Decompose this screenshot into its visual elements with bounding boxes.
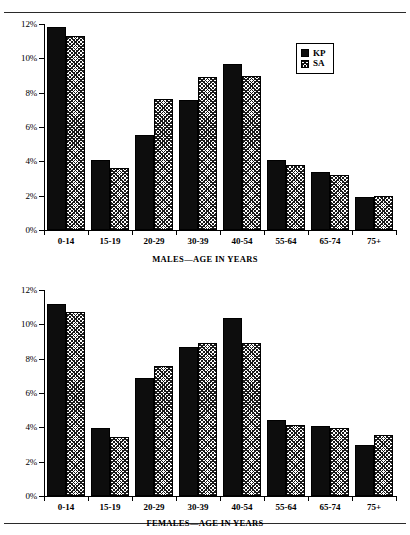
bar-group [176, 290, 220, 496]
x-axis-tick [88, 230, 89, 235]
x-axis-category-label: 40-54 [232, 236, 253, 246]
bar-group [352, 24, 396, 230]
bar-kp [135, 135, 154, 230]
bar-kp [91, 428, 110, 496]
bar-group [132, 290, 176, 496]
legend-entry-sa: SA [301, 59, 326, 68]
bar-pair [132, 290, 176, 496]
bar-group [88, 24, 132, 230]
bar-kp [179, 347, 198, 496]
x-axis-tick [396, 496, 397, 501]
bar-kp [135, 378, 154, 496]
bar-sa [198, 343, 217, 496]
bar-sa [110, 437, 129, 496]
y-axis-tick-label: 12% [21, 285, 37, 295]
bar-pair [44, 290, 88, 496]
bar-kp [355, 445, 374, 497]
x-axis-category-label: 0-14 [58, 236, 75, 246]
bar-kp [311, 172, 330, 230]
bar-group [308, 290, 352, 496]
bar-group [88, 290, 132, 496]
chart-males: 0%2%4%6%8%10%12%0-1415-1920-2930-3940-54… [0, 16, 410, 268]
figure-page: 0%2%4%6%8%10%12%0-1415-1920-2930-3940-54… [0, 0, 410, 535]
x-axis-tick [44, 496, 45, 501]
x-axis-tick [308, 496, 309, 501]
x-axis-category-label: 20-29 [144, 502, 165, 512]
top-horizontal-rule [4, 12, 406, 13]
x-axis-tick [44, 230, 45, 235]
bar-sa [374, 435, 393, 496]
bar-pair [132, 24, 176, 230]
bar-kp [179, 100, 198, 230]
bar-sa [66, 312, 85, 496]
x-axis-title-females: FEMALES—AGE IN YEARS [0, 518, 410, 528]
bar-pair [220, 290, 264, 496]
y-axis-tick-label: 2% [25, 191, 37, 201]
bar-sa [330, 428, 349, 496]
x-axis-category-label: 0-14 [58, 502, 75, 512]
bar-group [220, 290, 264, 496]
bar-kp [47, 27, 66, 230]
x-axis-tick [308, 230, 309, 235]
x-axis-tick [132, 496, 133, 501]
x-axis-tick [88, 496, 89, 501]
x-axis-tick [132, 230, 133, 235]
y-axis-tick-label: 8% [25, 88, 37, 98]
legend-swatch-sa-icon [301, 60, 309, 68]
bar-sa [242, 76, 261, 230]
chart-females: 0%2%4%6%8%10%12%0-1415-1920-2930-3940-54… [0, 282, 410, 532]
x-axis-category-label: 75+ [367, 502, 381, 512]
x-axis-title-males: MALES—AGE IN YEARS [0, 254, 410, 264]
bar-sa [242, 343, 261, 496]
bar-kp [311, 426, 330, 496]
bar-kp [267, 420, 286, 496]
bar-sa [374, 196, 393, 230]
x-axis-tick [220, 496, 221, 501]
bar-kp [223, 318, 242, 496]
y-axis-tick-label: 4% [25, 422, 37, 432]
y-axis-tick-label: 0% [25, 491, 37, 501]
x-axis-category-label: 40-54 [232, 502, 253, 512]
x-axis-tick [220, 230, 221, 235]
x-axis-category-label: 55-64 [276, 236, 297, 246]
x-axis-category-label: 15-19 [100, 236, 121, 246]
legend-entry-kp: KP [301, 49, 326, 58]
bar-kp [355, 197, 374, 230]
y-axis-tick-label: 0% [25, 225, 37, 235]
bar-sa [286, 425, 305, 496]
bar-kp [267, 160, 286, 230]
bar-group [220, 24, 264, 230]
y-axis-tick-label: 10% [21, 319, 37, 329]
x-axis-tick [352, 230, 353, 235]
bar-sa [154, 366, 173, 496]
bar-sa [154, 99, 173, 230]
x-axis-category-label: 15-19 [100, 502, 121, 512]
x-axis-tick [396, 230, 397, 235]
bar-pair [44, 24, 88, 230]
legend-label-sa: SA [313, 59, 325, 68]
x-axis-category-label: 30-39 [188, 236, 209, 246]
bar-group [176, 24, 220, 230]
bar-kp [91, 160, 110, 230]
bar-kp [223, 64, 242, 230]
bar-kp [47, 304, 66, 496]
bar-pair [352, 290, 396, 496]
x-axis-category-label: 65-74 [320, 502, 341, 512]
plot-area-males: 0%2%4%6%8%10%12%0-1415-1920-2930-3940-54… [44, 24, 396, 230]
y-axis-tick-label: 8% [25, 354, 37, 364]
bar-group [132, 24, 176, 230]
bar-group [264, 290, 308, 496]
bar-pair [176, 290, 220, 496]
bar-group [352, 290, 396, 496]
bar-pair [88, 24, 132, 230]
y-axis-tick-label: 2% [25, 457, 37, 467]
bar-pair [308, 290, 352, 496]
bar-sa [330, 175, 349, 230]
plot-area-females: 0%2%4%6%8%10%12%0-1415-1920-2930-3940-54… [44, 290, 396, 496]
y-axis-tick-label: 10% [21, 53, 37, 63]
bar-sa [198, 77, 217, 230]
x-axis-category-label: 20-29 [144, 236, 165, 246]
bar-group [44, 24, 88, 230]
x-axis-tick [264, 496, 265, 501]
legend: KP SA [296, 43, 334, 74]
